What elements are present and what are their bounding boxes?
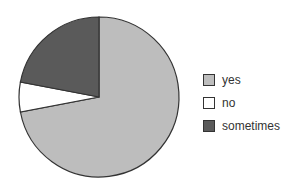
legend-label: sometimes — [222, 119, 280, 133]
legend-label: yes — [222, 73, 241, 87]
legend: yes no sometimes — [203, 68, 280, 137]
legend-label: no — [222, 96, 235, 110]
legend-item-yes: yes — [203, 68, 280, 91]
legend-swatch-no — [203, 97, 215, 109]
legend-item-no: no — [203, 91, 280, 114]
pie-chart — [0, 0, 200, 185]
legend-swatch-sometimes — [203, 120, 215, 132]
legend-swatch-yes — [203, 74, 215, 86]
legend-item-sometimes: sometimes — [203, 114, 280, 137]
